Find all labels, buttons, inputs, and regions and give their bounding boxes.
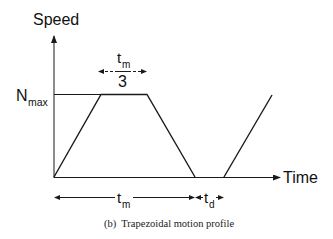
- y-axis-label: Speed: [33, 11, 79, 28]
- td-label-sub: d: [209, 199, 215, 210]
- next-rise-line: [224, 95, 272, 177]
- trapezoid-profile: [54, 95, 195, 178]
- tm-label-sub: m: [122, 199, 130, 210]
- top-interval-sub: m: [122, 59, 130, 70]
- caption: (b) Trapezoidal motion profile: [104, 218, 234, 230]
- top-interval-divisor: 3: [118, 73, 127, 90]
- trapezoidal-motion-diagram: Speed Time N max t m 3 t m t d (b) Trape…: [0, 0, 333, 239]
- x-axis-label: Time: [283, 169, 318, 186]
- nmax-label-main: N: [16, 87, 28, 104]
- nmax-label-sub: max: [28, 96, 49, 108]
